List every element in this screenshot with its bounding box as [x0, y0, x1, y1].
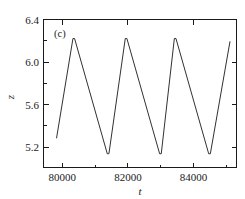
x-axis-major-ticks — [62, 163, 193, 168]
y-tick-label-6-0: 6.0 — [25, 56, 39, 68]
figure-panel-c: 6.4 6.0 5.6 5.2 80000 82000 84000 t z (c… — [0, 0, 245, 199]
x-axis-top-ticks — [62, 20, 193, 25]
y-tick-label-6-4: 6.4 — [25, 14, 39, 26]
y-axis-title: z — [4, 94, 16, 100]
y-axis-right-ticks — [232, 62, 237, 147]
line-chart: 6.4 6.0 5.6 5.2 80000 82000 84000 t z (c… — [0, 0, 245, 199]
panel-label: (c) — [54, 28, 66, 40]
data-series-z — [57, 39, 230, 154]
y-tick-label-5-6: 5.6 — [25, 99, 39, 111]
x-tick-label-80000: 80000 — [48, 171, 76, 183]
y-tick-label-5-2: 5.2 — [25, 141, 39, 153]
x-tick-label-82000: 82000 — [114, 171, 142, 183]
x-axis-title: t — [138, 185, 142, 197]
x-tick-label-84000: 84000 — [180, 171, 208, 183]
